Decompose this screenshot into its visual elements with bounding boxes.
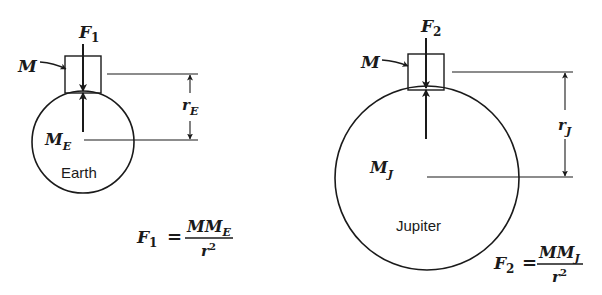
jupiter-formula-numerator: MMJ xyxy=(538,243,580,265)
earth-formula-lhs: F1 xyxy=(136,227,157,250)
earth-planet-label: Earth xyxy=(61,164,97,181)
jupiter-force-label: F2 xyxy=(420,16,441,39)
earth-force-label: F1 xyxy=(78,22,99,45)
jupiter-formula-equals: = xyxy=(522,252,537,273)
earth-formula-denominator: r2 xyxy=(201,241,216,260)
jupiter-diagram: F2 M rJ MJ Jupiter F2 = MMJ r2 xyxy=(335,16,583,286)
jupiter-formula-lhs: F2 xyxy=(493,253,514,276)
jupiter-formula-denominator: r2 xyxy=(552,267,567,286)
jupiter-planet-label: Jupiter xyxy=(396,217,441,234)
jupiter-test-mass-label: M xyxy=(360,52,381,72)
jupiter-force-formula: F2 = MMJ r2 xyxy=(493,243,583,286)
earth-mass-label: ME xyxy=(44,130,72,153)
earth-test-mass-label: M xyxy=(17,56,38,76)
earth-formula-numerator: MME xyxy=(186,217,231,239)
earth-formula-equals: = xyxy=(167,226,182,247)
earth-diagram: F1 M rE ME Earth F1 = MME r2 xyxy=(17,22,233,260)
gravity-comparison-diagram: F1 M rE ME Earth F1 = MME r2 xyxy=(0,0,602,295)
jupiter-mass-label: MJ xyxy=(369,158,394,181)
earth-radius-label: rE xyxy=(182,96,199,118)
earth-force-formula: F1 = MME r2 xyxy=(136,217,233,260)
jupiter-radius-label: rJ xyxy=(558,116,572,138)
jupiter-mass-pointer-arrow xyxy=(382,60,408,66)
earth-mass-pointer-arrow xyxy=(40,62,66,69)
